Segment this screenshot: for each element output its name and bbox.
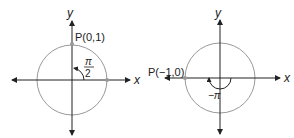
point-label: P(0,1) <box>75 31 105 43</box>
angle-numerator: π <box>85 56 92 67</box>
angle-arc <box>74 68 84 80</box>
x-axis-label: x <box>283 71 291 85</box>
start-marker <box>105 78 109 82</box>
point-label: P(−1,0) <box>148 66 184 78</box>
x-axis-label: x <box>133 73 141 87</box>
angle-denominator: 2 <box>85 68 91 79</box>
unit-circle-diagrams: y x P(0,1) π 2 y x P(−1,0) −π <box>0 0 294 138</box>
diagram-right: y x P(−1,0) −π <box>148 6 291 134</box>
y-axis-label: y <box>66 6 74 20</box>
angle-label: −π <box>208 90 221 101</box>
point-marker <box>70 42 74 46</box>
diagram-left: y x P(0,1) π 2 <box>12 6 141 135</box>
y-axis-label: y <box>214 6 222 20</box>
